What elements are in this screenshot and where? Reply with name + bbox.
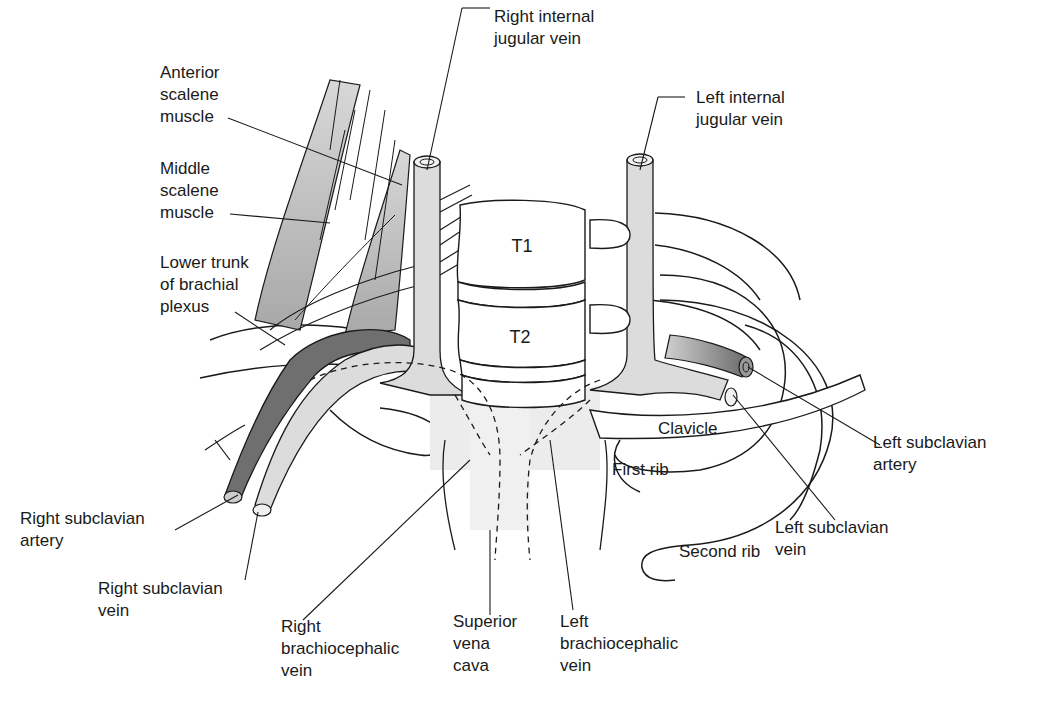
label-right-brachiocephalic-vein: Right brachiocephalic vein [281, 616, 399, 682]
label-anterior-scalene-muscle: Anterior scalene muscle [160, 62, 220, 128]
right-subclavian-vein-lumen [253, 504, 271, 516]
right-scalene-muscles [255, 80, 410, 335]
label-left-brachiocephalic-vein: Left brachiocephalic vein [560, 611, 678, 677]
label-middle-scalene-muscle: Middle scalene muscle [160, 158, 219, 224]
label-left-internal-jugular-vein: Left internal jugular vein [696, 87, 785, 131]
label-clavicle: Clavicle [658, 418, 718, 440]
label-first-rib: First rib [612, 459, 669, 481]
t2-label: T2 [509, 327, 530, 347]
label-right-subclavian-vein: Right subclavian vein [98, 578, 223, 622]
label-right-subclavian-artery: Right subclavian artery [20, 508, 145, 552]
left-subclavian-artery-lumen [739, 357, 753, 377]
label-right-internal-jugular-vein: Right internal jugular vein [494, 6, 594, 50]
label-left-subclavian-vein: Left subclavian vein [775, 517, 888, 561]
vertebral-column [457, 200, 630, 407]
upper-ribs-left [650, 213, 800, 350]
t1-label: T1 [511, 236, 532, 256]
label-superior-vena-cava: Superior vena cava [453, 611, 517, 677]
label-left-subclavian-artery: Left subclavian artery [873, 432, 986, 476]
label-lower-trunk-brachial-plexus: Lower trunk of brachial plexus [160, 252, 249, 318]
label-second-rib: Second rib [679, 541, 760, 563]
thoracic-outlet-diagram: T1 T2 Anterior scalene muscle Middle sca… [0, 0, 1054, 701]
